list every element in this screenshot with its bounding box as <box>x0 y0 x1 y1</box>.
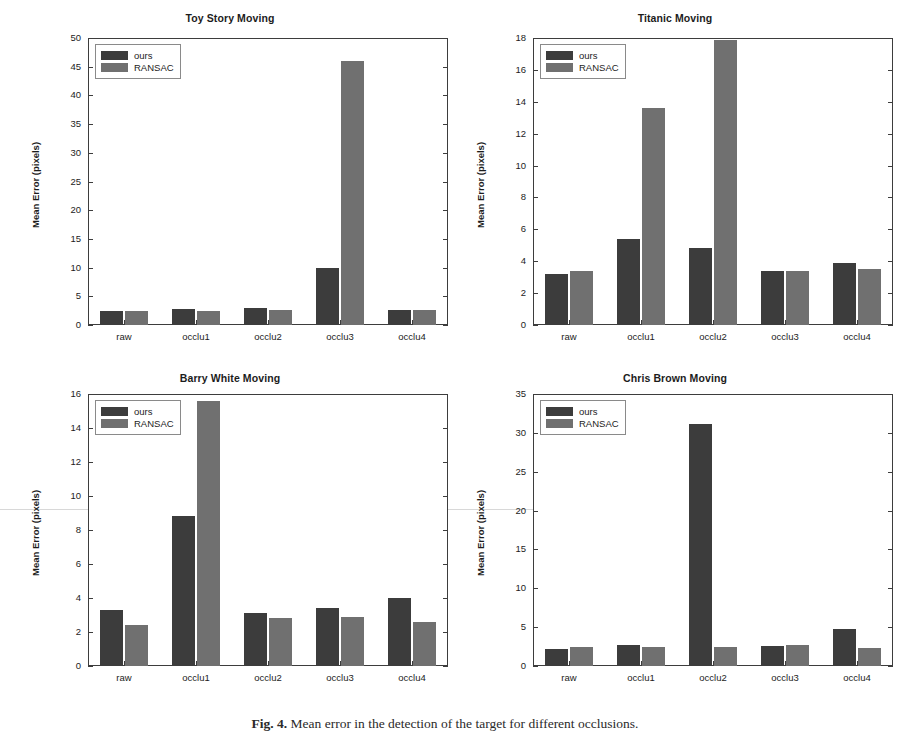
y-axis-tick-mark <box>443 394 448 395</box>
chart-panel-barry-white-moving: Barry White Moving 0246810121416Mean Err… <box>16 372 444 702</box>
legend-item-ours: ours <box>546 406 619 417</box>
legend-label-ours: ours <box>134 407 152 417</box>
y-axis-tick-label: 0 <box>16 661 81 671</box>
x-axis-tick-label: occlu1 <box>601 332 681 342</box>
y-axis-tick-mark <box>888 293 893 294</box>
bar-ours-occlu3 <box>316 268 339 325</box>
chart-title: Toy Story Moving <box>16 12 444 28</box>
y-axis-tick-mark <box>88 239 93 240</box>
y-axis-tick-mark <box>888 588 893 589</box>
y-axis-tick-label: 25 <box>16 177 81 187</box>
y-axis-tick-mark <box>443 182 448 183</box>
y-axis-tick-label: 0 <box>16 320 81 330</box>
x-axis-tick-label: raw <box>529 332 609 342</box>
chart-title: Barry White Moving <box>16 372 444 388</box>
y-axis-tick-mark <box>443 428 448 429</box>
y-axis-tick-mark <box>443 268 448 269</box>
y-axis-tick-mark <box>888 549 893 550</box>
bar-ransac-raw <box>125 625 148 666</box>
bar-ours-occlu1 <box>172 309 195 325</box>
y-axis-tick-label: 30 <box>16 148 81 158</box>
y-axis-tick-mark <box>88 210 93 211</box>
x-axis-tick-label: occlu2 <box>228 673 308 683</box>
x-axis-tick-label: occlu2 <box>228 332 308 342</box>
y-axis-tick-label: 10 <box>461 161 526 171</box>
y-axis-tick-label: 6 <box>461 224 526 234</box>
chart-panel-chris-brown-moving: Chris Brown Moving 05101520253035Mean Er… <box>461 372 889 702</box>
bar-ransac-occlu2 <box>269 310 292 325</box>
x-axis-tick-label: occlu4 <box>372 332 452 342</box>
x-axis-tick-label: raw <box>84 673 164 683</box>
y-axis-tick-mark <box>533 666 538 667</box>
bar-ours-occlu1 <box>172 516 195 666</box>
legend-item-ransac: RANSAC <box>101 418 174 429</box>
y-axis-tick-mark <box>888 433 893 434</box>
y-axis-tick-label: 25 <box>461 467 526 477</box>
bar-ransac-occlu1 <box>197 401 220 666</box>
bar-ransac-occlu1 <box>642 647 665 666</box>
legend-label-ours: ours <box>579 407 597 417</box>
bar-ours-occlu2 <box>244 308 267 325</box>
chart-panel-titanic-moving: Titanic Moving 024681012141618Mean Error… <box>461 12 889 360</box>
y-axis-tick-mark <box>888 472 893 473</box>
y-axis-label: Mean Error (pixels) <box>475 141 486 227</box>
y-axis-tick-mark <box>888 511 893 512</box>
y-axis-tick-mark <box>533 511 538 512</box>
y-axis-tick-mark <box>88 153 93 154</box>
bar-ours-occlu3 <box>761 646 784 666</box>
y-axis-tick-label: 15 <box>16 234 81 244</box>
y-axis-tick-mark <box>443 530 448 531</box>
x-axis-tick-label: occlu3 <box>300 673 380 683</box>
y-axis-tick-mark <box>88 598 93 599</box>
bar-ransac-raw <box>570 271 593 325</box>
y-axis-tick-mark <box>443 666 448 667</box>
bar-ours-occlu1 <box>617 645 640 666</box>
y-axis-tick-mark <box>533 166 538 167</box>
y-axis-tick-label: 14 <box>16 423 81 433</box>
legend-label-ours: ours <box>579 51 597 61</box>
legend-item-ours: ours <box>101 406 174 417</box>
bar-ours-occlu3 <box>761 271 784 325</box>
y-axis-tick-mark <box>443 210 448 211</box>
x-axis-tick-label: occlu2 <box>673 673 753 683</box>
legend-label-ransac: RANSAC <box>134 63 174 73</box>
y-axis-tick-mark <box>533 293 538 294</box>
y-axis-tick-mark <box>88 428 93 429</box>
y-axis-tick-mark <box>88 296 93 297</box>
legend-swatch-ours <box>546 51 573 60</box>
y-axis-tick-label: 40 <box>16 90 81 100</box>
y-axis-tick-label: 4 <box>16 593 81 603</box>
bar-ours-occlu2 <box>244 613 267 666</box>
y-axis-tick-label: 12 <box>16 457 81 467</box>
y-axis-tick-mark <box>88 124 93 125</box>
y-axis-tick-label: 16 <box>16 389 81 399</box>
y-axis-tick-mark <box>888 325 893 326</box>
y-axis-tick-label: 5 <box>461 622 526 632</box>
bar-ransac-occlu2 <box>714 40 737 325</box>
legend-swatch-ransac <box>546 63 573 72</box>
x-axis-tick-label: occlu1 <box>156 332 236 342</box>
bar-ours-occlu4 <box>388 310 411 325</box>
y-axis-label: Mean Error (pixels) <box>30 490 41 576</box>
y-axis-tick-label: 50 <box>16 33 81 43</box>
bar-ransac-occlu3 <box>786 645 809 666</box>
figure-caption: Fig. 4. Mean error in the detection of t… <box>0 716 890 732</box>
y-axis-tick-mark <box>88 394 93 395</box>
legend-item-ours: ours <box>546 50 619 61</box>
y-axis-tick-mark <box>88 564 93 565</box>
y-axis-tick-label: 16 <box>461 65 526 75</box>
bar-ransac-occlu4 <box>858 269 881 325</box>
x-axis-tick-label: occlu4 <box>817 332 897 342</box>
legend-label-ransac: RANSAC <box>579 419 619 429</box>
y-axis-tick-mark <box>533 472 538 473</box>
legend-label-ransac: RANSAC <box>579 63 619 73</box>
bar-ransac-raw <box>570 647 593 666</box>
y-axis-tick-mark <box>533 627 538 628</box>
legend-label-ours: ours <box>134 51 152 61</box>
y-axis-tick-mark <box>533 433 538 434</box>
bar-ransac-occlu4 <box>413 622 436 666</box>
legend-item-ransac: RANSAC <box>546 62 619 73</box>
y-axis-tick-mark <box>88 666 93 667</box>
bar-ransac-occlu3 <box>341 61 364 325</box>
x-axis-tick-label: raw <box>529 673 609 683</box>
